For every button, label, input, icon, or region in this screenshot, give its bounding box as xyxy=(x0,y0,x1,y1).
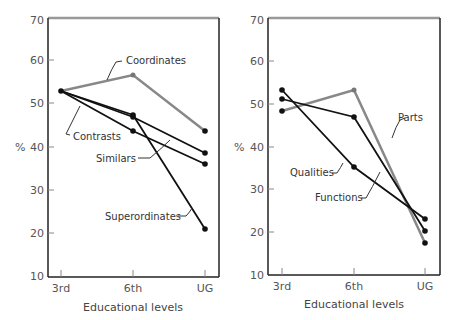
left-xtick-6th: 6th xyxy=(124,282,142,295)
left-ytick-10: 10 xyxy=(30,270,44,283)
left-ytick-50: 50 xyxy=(30,97,44,110)
label-qualities: Qualities xyxy=(290,167,334,178)
series-contrasts xyxy=(61,91,205,153)
left-ytick-40: 40 xyxy=(30,141,44,154)
right-ytick-40: 40 xyxy=(250,141,264,154)
label-superordinates: Superordinates xyxy=(105,211,181,222)
right-ytick-50: 50 xyxy=(250,98,264,111)
label-coordinates: Coordinates xyxy=(126,55,186,66)
left-chart: 70 60 50 40 30 20 10 % 3rd 6th UG Educat… xyxy=(15,14,219,314)
left-ytick-70: 70 xyxy=(30,14,44,27)
right-xtick-3rd: 3rd xyxy=(273,280,291,293)
left-xtick-ug: UG xyxy=(197,282,214,295)
right-chart: 70 60 50 40 30 20 10 % 3rd 6th UG Educat… xyxy=(234,14,440,311)
label-functions: Functions xyxy=(315,192,363,203)
left-xtick-3rd: 3rd xyxy=(52,282,70,295)
right-ylabel: % xyxy=(234,141,244,154)
left-xlabel: Educational levels xyxy=(83,301,183,314)
right-xtick-6th: 6th xyxy=(345,280,363,293)
left-ytick-20: 20 xyxy=(30,227,44,240)
right-ytick-10: 10 xyxy=(250,269,264,282)
right-ytick-70: 70 xyxy=(250,14,264,27)
right-xlabel: Educational levels xyxy=(304,298,404,311)
right-ytick-60: 60 xyxy=(250,55,264,68)
label-similars: Similars xyxy=(96,153,136,164)
right-xtick-ug: UG xyxy=(417,280,434,293)
left-ytick-60: 60 xyxy=(30,54,44,67)
right-ytick-20: 20 xyxy=(250,226,264,239)
label-parts: Parts xyxy=(398,112,423,123)
right-ytick-30: 30 xyxy=(250,183,264,196)
chart-figure: 70 60 50 40 30 20 10 % 3rd 6th UG Educat… xyxy=(0,0,454,320)
label-contrasts: Contrasts xyxy=(73,131,121,142)
left-ytick-30: 30 xyxy=(30,184,44,197)
left-ylabel: % xyxy=(15,141,25,154)
